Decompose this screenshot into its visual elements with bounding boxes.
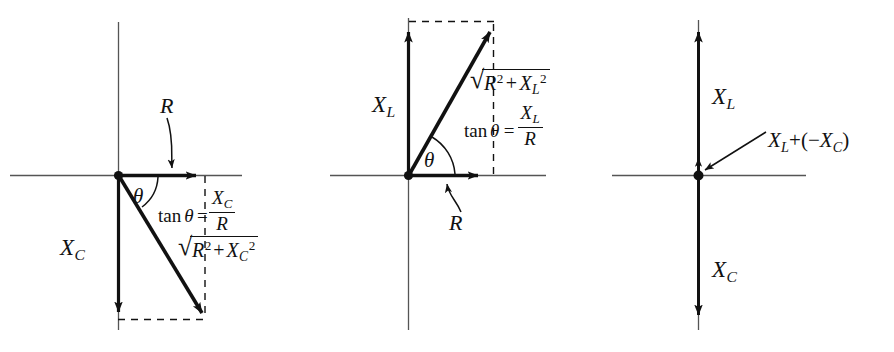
angle-arc-2: [432, 137, 455, 174]
origin-dot-3: [694, 171, 704, 181]
formula-magnitude-2: √R2+XL2: [470, 69, 550, 97]
label-xl-3: XL: [712, 85, 735, 112]
leader-sum-3: [705, 132, 766, 170]
origin-dot-2: [404, 171, 413, 180]
diagram-3-net-reactance: [600, 0, 894, 352]
axes-3: [612, 20, 806, 330]
label-xc-1: XC: [60, 236, 85, 263]
angle-arc-1: [142, 177, 158, 207]
label-net-reactance-sum-3: XL+(−XC): [768, 130, 849, 154]
diagram-2-rl-phasor: [300, 0, 600, 352]
label-theta-1: θ: [133, 186, 143, 207]
origin-dot-1: [114, 171, 123, 180]
diagram-1-rc-phasor: [0, 0, 300, 352]
label-r-1: R: [160, 95, 173, 117]
label-theta-2: θ: [424, 150, 434, 171]
label-xl-2: XL: [372, 93, 395, 120]
label-r-2: R: [449, 212, 462, 234]
formula-tangent-2: tanθ=XLR: [464, 103, 544, 148]
label-xc-3: XC: [712, 258, 737, 285]
phasor-diagram-figure: XC R θ tanθ=XCR √R2+XC2: [0, 0, 894, 352]
formula-tangent-1: tanθ=XCR: [158, 188, 237, 233]
formula-magnitude-1: √R2+XC2: [178, 236, 258, 264]
leader-r-1: [167, 118, 172, 168]
leader-r-2: [447, 184, 461, 212]
